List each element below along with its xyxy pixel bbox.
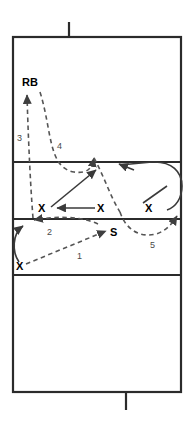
- route-number-2: 2: [47, 227, 52, 237]
- field-diagram: RB X X X X S 1 2 3 4 5: [0, 0, 193, 421]
- play-diagram-canvas: RB X X X X S 1 2 3 4 5: [0, 0, 193, 421]
- field-group: [13, 22, 181, 410]
- route-number-1: 1: [77, 251, 82, 261]
- route-number-4: 4: [57, 141, 62, 151]
- player-label-safety: S: [110, 226, 117, 238]
- player-label-rb: RB: [22, 76, 38, 88]
- player-marker-x-right: X: [145, 202, 153, 214]
- player-marker-x-bottom-left: X: [16, 260, 24, 272]
- player-marker-x-mid: X: [97, 202, 105, 214]
- field-outline: [13, 37, 181, 392]
- route-number-3: 3: [17, 133, 22, 143]
- player-marker-x-left: X: [38, 202, 46, 214]
- route-number-5: 5: [150, 240, 155, 250]
